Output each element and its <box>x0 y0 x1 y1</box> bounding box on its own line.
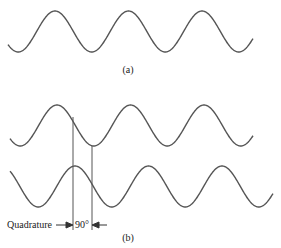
quadrature-diagram: (a) Quadrature 90° (b) <box>0 0 281 248</box>
panel-a-label: (a) <box>122 64 133 76</box>
right-arrow-icon <box>92 222 107 228</box>
sine-wave-b-top <box>10 105 253 146</box>
panel-b-label: (b) <box>122 232 134 244</box>
left-arrow-icon <box>56 222 73 228</box>
sine-wave-b-bottom <box>10 166 273 207</box>
quadrature-label: Quadrature <box>7 219 53 230</box>
sine-wave-a <box>8 11 253 52</box>
phase-angle-label: 90° <box>75 219 89 230</box>
